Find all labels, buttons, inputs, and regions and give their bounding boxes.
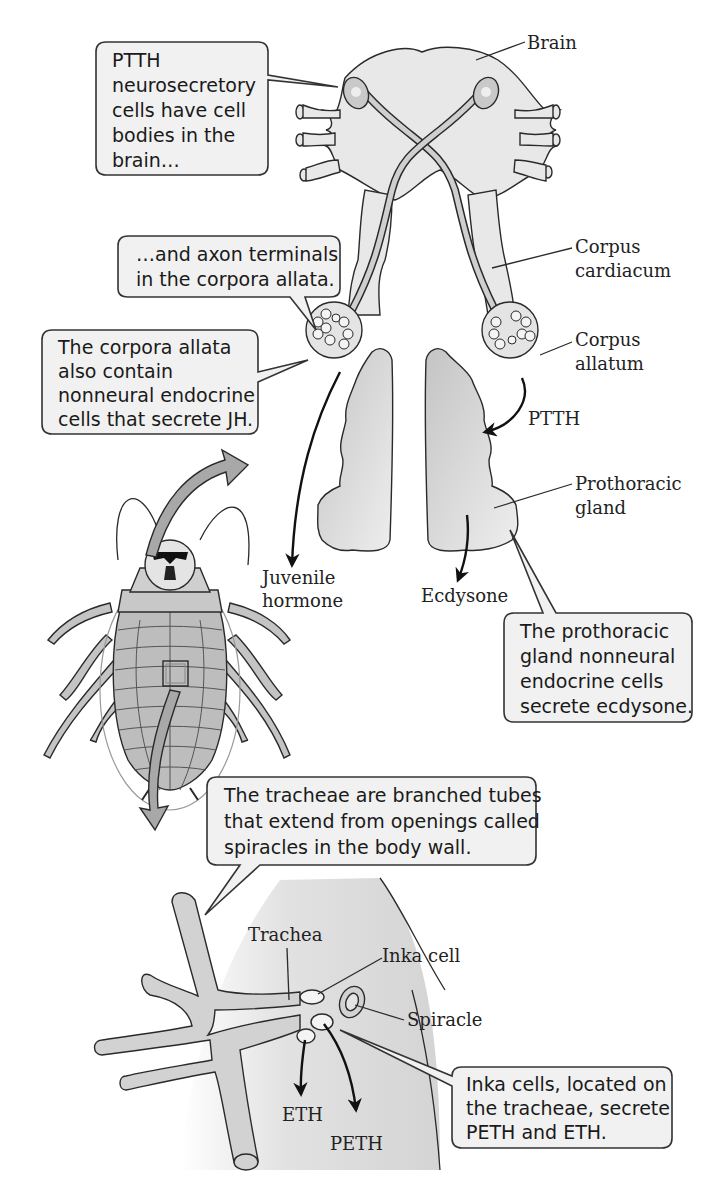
corpus-allatum-left: [306, 302, 362, 358]
callout-prothoracic: The prothoracic gland nonneural endocrin…: [504, 530, 693, 722]
svg-text:also contain: also contain: [58, 360, 173, 382]
label-spiracle: Spiracle: [407, 1009, 482, 1030]
callout-axon-terminals: …and axon terminals in the corpora allat…: [118, 236, 340, 330]
svg-text:the tracheae, secrete: the tracheae, secrete: [466, 1097, 670, 1119]
inka-cell-2: [311, 1014, 333, 1030]
trachea-panel: [95, 878, 446, 1170]
prothoracic-gland-right: [425, 349, 518, 551]
svg-text:PTTH: PTTH: [112, 49, 161, 71]
svg-text:bodies in the: bodies in the: [112, 124, 235, 146]
svg-text:spiracles in the body wall.: spiracles in the body wall.: [224, 836, 471, 858]
label-inka-cell: Inka cell: [382, 945, 461, 966]
insect-endocrine-diagram: Brain Corpus cardiacum Corpus allatum PT…: [0, 0, 722, 1191]
svg-text:PETH and ETH.: PETH and ETH.: [466, 1121, 607, 1143]
label-corpus-cardiacum-1: Corpus: [575, 236, 641, 257]
svg-text:secrete ecdysone.: secrete ecdysone.: [520, 695, 693, 717]
svg-text:…and axon terminals: …and axon terminals: [136, 243, 338, 265]
label-peth: PETH: [330, 1133, 383, 1154]
corpus-allatum-right: [482, 302, 538, 358]
label-prothoracic-gland-2: gland: [575, 497, 626, 518]
label-trachea: Trachea: [248, 924, 323, 945]
label-corpus-allatum-1: Corpus: [575, 329, 641, 350]
label-brain: Brain: [527, 32, 577, 53]
label-juvenile-hormone-2: hormone: [262, 590, 343, 611]
label-prothoracic-gland-1: Prothoracic: [575, 473, 681, 494]
svg-text:The tracheae are branched tube: The tracheae are branched tubes: [223, 784, 542, 806]
svg-text:cells have cell: cells have cell: [112, 99, 246, 121]
label-corpus-cardiacum-2: cardiacum: [575, 260, 671, 281]
svg-text:brain…: brain…: [112, 149, 180, 171]
svg-text:nonneural endocrine: nonneural endocrine: [58, 384, 255, 406]
svg-text:The prothoracic: The prothoracic: [519, 620, 669, 642]
svg-text:cells that secrete JH.: cells that secrete JH.: [58, 408, 253, 430]
callout-corpora-allata: The corpora allata also contain nonneura…: [42, 330, 308, 434]
svg-text:gland nonneural: gland nonneural: [520, 645, 675, 667]
zoom-arrow-to-brain: [146, 450, 248, 557]
brain: [296, 47, 560, 200]
svg-text:endocrine cells: endocrine cells: [520, 670, 663, 692]
insect-body: [44, 499, 290, 810]
svg-text:that extend from openings call: that extend from openings called: [224, 810, 540, 832]
label-corpus-allatum-2: allatum: [575, 353, 644, 374]
svg-text:in the corpora allata.: in the corpora allata.: [136, 268, 335, 290]
svg-text:The corpora allata: The corpora allata: [57, 336, 231, 358]
label-ecdysone: Ecdysone: [421, 585, 508, 606]
prothoracic-gland-left: [318, 349, 393, 551]
svg-text:Inka cells, located on: Inka cells, located on: [466, 1073, 667, 1095]
svg-text:neurosecretory: neurosecretory: [112, 74, 256, 96]
label-eth: ETH: [282, 1104, 323, 1125]
ptth-arrow: [485, 378, 525, 432]
label-juvenile-hormone-1: Juvenile: [260, 567, 335, 588]
label-ptth: PTTH: [528, 408, 580, 429]
